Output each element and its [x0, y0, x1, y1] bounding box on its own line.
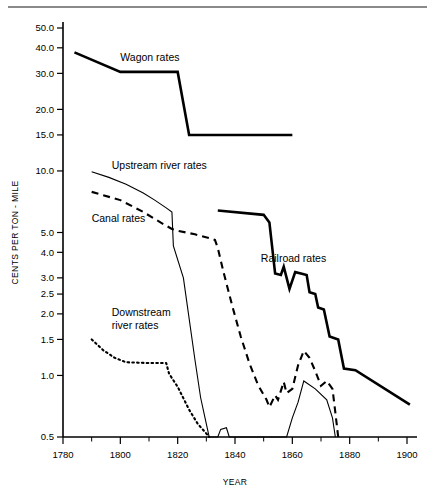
- y-tick-label: 5.0: [41, 227, 54, 238]
- x-tick-label: 1820: [167, 449, 188, 460]
- series-label-upstream-river-rates: Upstream river rates: [112, 159, 207, 171]
- y-tick-label: 2.0: [41, 308, 54, 319]
- series-label-railroad-rates: Railroad rates: [261, 252, 326, 264]
- series-line-wagon-rates: [74, 52, 292, 135]
- y-tick-label: 15.0: [36, 129, 55, 140]
- y-axis-title: CENTS PER TON - MILE: [10, 180, 20, 284]
- x-tick-label: 1900: [396, 449, 417, 460]
- y-tick-label: 30.0: [36, 68, 55, 79]
- x-tick-label: 1860: [282, 449, 303, 460]
- chart-root: 50.040.030.020.015.010.05.04.03.02.52.01…: [0, 0, 435, 495]
- series-line-downstream-river-rates: [92, 339, 210, 437]
- rate-comparison-chart: 50.040.030.020.015.010.05.04.03.02.52.01…: [0, 0, 435, 495]
- y-tick-label: 0.5: [41, 431, 54, 442]
- y-tick-label: 1.0: [41, 370, 54, 381]
- y-tick-label: 10.0: [36, 165, 55, 176]
- series-label-downstream-river-rates: Downstream: [112, 306, 171, 318]
- series-label-canal-rates: Canal rates: [92, 212, 146, 224]
- y-tick-label: 50.0: [36, 22, 55, 33]
- series-line-railroad-rates: [218, 211, 410, 405]
- y-tick-label: 2.5: [41, 288, 54, 299]
- series-label-downstream-river-rates: river rates: [112, 319, 159, 331]
- y-tick-label: 20.0: [36, 104, 55, 115]
- x-tick-label: 1780: [52, 449, 73, 460]
- series-label-wagon-rates: Wagon rates: [120, 51, 179, 63]
- y-tick-label: 1.5: [41, 334, 54, 345]
- x-axis-title: YEAR: [223, 477, 248, 487]
- y-tick-label: 40.0: [36, 42, 55, 53]
- x-tick-label: 1840: [224, 449, 245, 460]
- y-tick-label: 4.0: [41, 247, 54, 258]
- y-tick-label: 3.0: [41, 272, 54, 283]
- x-tick-label: 1800: [110, 449, 131, 460]
- x-tick-label: 1880: [339, 449, 360, 460]
